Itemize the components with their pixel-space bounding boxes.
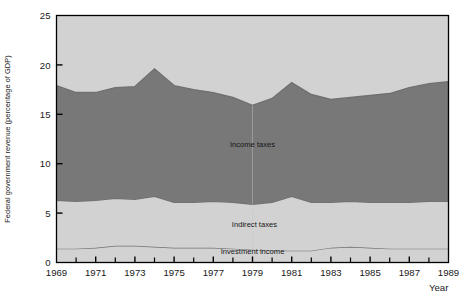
y-tick-label: 10 [40, 158, 51, 169]
x-tick-label: 1975 [163, 267, 184, 278]
y-tick-label: 15 [40, 109, 51, 120]
x-tick-label: 1971 [85, 267, 106, 278]
x-tick-label: 1987 [399, 267, 420, 278]
x-tick-label: 1985 [359, 267, 380, 278]
x-tick-label: 1981 [281, 267, 302, 278]
chart-figure: 0510152025 19691971197319751977197919811… [0, 0, 465, 297]
series-label-income-taxes: Income taxes [230, 140, 275, 149]
y-axis-title: Federal government revenue (percentage o… [3, 55, 12, 222]
x-tick-label: 1977 [203, 267, 224, 278]
y-tick-label: 5 [45, 208, 50, 219]
series-label-indirect-taxes: Indirect taxes [232, 220, 277, 229]
y-tick-label: 20 [40, 60, 51, 71]
x-axis-title: Year [429, 282, 449, 293]
x-tick-label: 1973 [124, 267, 145, 278]
x-tick-label: 1969 [46, 267, 67, 278]
x-tick-label: 1979 [242, 267, 263, 278]
y-tick-label: 25 [40, 10, 51, 21]
x-tick-label: 1983 [320, 267, 341, 278]
x-tick-label: 1989 [438, 267, 459, 278]
series-label-investment-income: Investment income [221, 247, 285, 256]
stacked-area-chart: 0510152025 19691971197319751977197919811… [0, 0, 465, 297]
